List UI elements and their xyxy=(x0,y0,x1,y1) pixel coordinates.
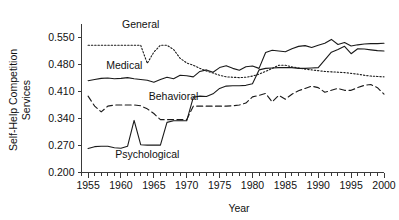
y-axis-title-line1: Self-Help Competition xyxy=(7,49,19,151)
series-label-general: General xyxy=(122,18,159,30)
y-tick-label: 0.480 xyxy=(48,58,74,70)
x-tick-label: 1980 xyxy=(241,179,265,191)
x-tick-label: 1995 xyxy=(339,179,363,191)
y-tick-label: 0.270 xyxy=(48,139,74,151)
data-series xyxy=(88,39,384,148)
chart-figure: GeneralMedicalBehavioralPsychological 0.… xyxy=(0,0,399,220)
y-tick-label: 0.550 xyxy=(48,31,74,43)
series-label-medical: Medical xyxy=(106,59,142,71)
y-tick-label: 0.200 xyxy=(48,166,74,178)
x-tick-label: 1965 xyxy=(142,179,166,191)
x-tick-label: 1985 xyxy=(274,179,298,191)
y-tick-label: 0.340 xyxy=(48,112,74,124)
x-axis-title: Year xyxy=(228,202,250,214)
line-chart: GeneralMedicalBehavioralPsychological 0.… xyxy=(0,0,399,220)
series-label-behavioral: Behavioral xyxy=(149,90,199,102)
x-tick-label: 1955 xyxy=(76,179,100,191)
x-tick-label: 1975 xyxy=(208,179,232,191)
x-tick-label: 1960 xyxy=(109,179,133,191)
y-tick-label: 0.410 xyxy=(48,85,74,97)
x-tick-label: 1970 xyxy=(175,179,199,191)
x-tick-label: 2000 xyxy=(372,179,396,191)
y-axis-title-line2: Services xyxy=(20,80,32,120)
x-tick-label: 1990 xyxy=(307,179,331,191)
series-label-psychological: Psychological xyxy=(115,148,179,160)
series-labels: GeneralMedicalBehavioralPsychological xyxy=(106,18,198,160)
series-line-behavioral xyxy=(88,85,384,120)
